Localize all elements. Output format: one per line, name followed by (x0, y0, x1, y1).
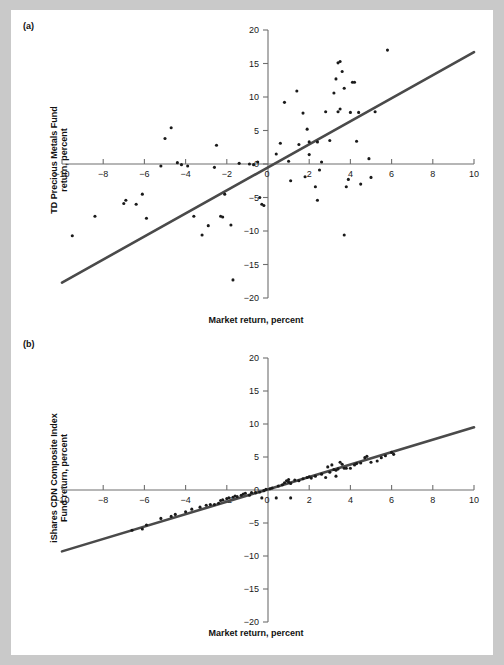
data-point (367, 157, 370, 160)
y-tick-label: 20 (249, 353, 259, 363)
x-tick-label: 6 (389, 495, 394, 505)
x-tick-label: 8 (430, 495, 435, 505)
x-tick-label-zero: 0 (264, 495, 269, 505)
data-point (287, 160, 290, 163)
data-point (345, 185, 348, 188)
data-point (336, 110, 339, 113)
data-point (320, 473, 323, 476)
data-point (248, 494, 251, 497)
data-point (213, 166, 216, 169)
data-point (330, 463, 333, 466)
data-point (297, 479, 300, 482)
svg-a-group: −10−8−6−4−2246810020151050−5−10−15−20 (54, 25, 479, 303)
data-point (176, 161, 179, 164)
data-point (236, 495, 239, 498)
data-point (262, 204, 265, 207)
data-point (326, 465, 329, 468)
data-point (384, 454, 387, 457)
x-tick-label: −4 (180, 169, 190, 179)
svg-b-group: −10−8−6−4−2246810020151050−5−10−15−20 (54, 353, 479, 627)
data-point (221, 215, 224, 218)
data-point (359, 183, 362, 186)
data-point (159, 164, 162, 167)
data-point (289, 482, 292, 485)
data-point (324, 110, 327, 113)
data-point (141, 193, 144, 196)
y-tick-label: 5 (254, 452, 259, 462)
data-point (328, 471, 331, 474)
y-tick-label: −20 (244, 293, 259, 303)
y-tick-label: −5 (249, 193, 259, 203)
y-tick-label: 15 (249, 386, 259, 396)
data-point (334, 77, 337, 80)
data-point (258, 196, 261, 199)
data-point (320, 160, 323, 163)
y-tick-label: 5 (254, 126, 259, 136)
data-point (264, 488, 267, 491)
x-tick-label: −8 (98, 495, 108, 505)
data-point (332, 91, 335, 94)
data-point (359, 461, 362, 464)
x-tick-label: 8 (430, 169, 435, 179)
data-point (260, 496, 263, 499)
data-point (209, 503, 212, 506)
data-point (145, 217, 148, 220)
data-point (289, 179, 292, 182)
data-point (304, 175, 307, 178)
data-point (324, 476, 327, 479)
data-point (343, 87, 346, 90)
data-point (386, 49, 389, 52)
data-point (289, 496, 292, 499)
data-point (349, 111, 352, 114)
x-tick-label: −2 (222, 169, 232, 179)
data-point (231, 278, 234, 281)
x-tick-label: −10 (54, 495, 69, 505)
data-point (341, 70, 344, 73)
data-point (223, 193, 226, 196)
x-tick-label: −10 (54, 169, 69, 179)
x-tick-label: 6 (389, 169, 394, 179)
data-point (334, 475, 337, 478)
data-point (283, 101, 286, 104)
figure-sheet: (a) TD Precious Metals Fund return, perc… (11, 10, 493, 655)
data-point (184, 510, 187, 513)
data-point (229, 223, 232, 226)
y-tick-label: −20 (244, 617, 259, 627)
data-point (252, 163, 255, 166)
data-point (190, 508, 193, 511)
x-tick-label: 4 (348, 169, 353, 179)
data-point (124, 199, 127, 202)
data-point (308, 140, 311, 143)
panel-a: (a) TD Precious Metals Fund return, perc… (11, 10, 493, 342)
y-tick-label: 15 (249, 59, 259, 69)
data-point (159, 517, 162, 520)
data-point (310, 477, 313, 480)
x-tick-label: −8 (98, 169, 108, 179)
x-tick-label-zero: 0 (264, 169, 269, 179)
data-point (135, 203, 138, 206)
data-point (369, 176, 372, 179)
y-tick-label: −15 (244, 584, 259, 594)
data-point (186, 164, 189, 167)
y-tick-label: 10 (249, 419, 259, 429)
x-tick-label: 10 (469, 169, 479, 179)
panel-b-x-axis-label: Market return, percent (156, 628, 356, 638)
x-tick-label: −4 (180, 495, 190, 505)
data-point (192, 215, 195, 218)
x-tick-label: −6 (139, 169, 149, 179)
data-point (217, 502, 220, 505)
data-point (339, 108, 342, 111)
data-point (170, 126, 173, 129)
data-point (141, 527, 144, 530)
y-tick-label: −15 (244, 260, 259, 270)
data-point (392, 453, 395, 456)
data-point (308, 153, 311, 156)
panel-b-plot: −10−8−6−4−2246810020151050−5−10−15−20 (11, 328, 493, 655)
data-point (301, 112, 304, 115)
data-point (248, 162, 251, 165)
data-point (347, 178, 350, 181)
y-tick-label: 20 (249, 25, 259, 35)
data-point (336, 467, 339, 470)
data-point (221, 498, 224, 501)
data-point (244, 492, 247, 495)
